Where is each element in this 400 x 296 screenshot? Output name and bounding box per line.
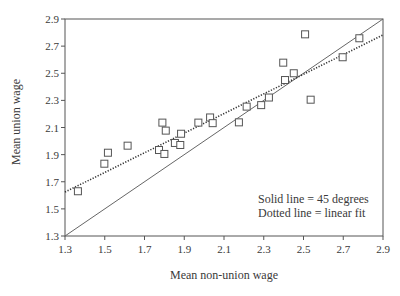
- y-tick-label: 1.3: [45, 230, 59, 242]
- x-axis-title: Mean non-union wage: [170, 268, 278, 282]
- data-point-square: [290, 70, 297, 77]
- data-point-square: [282, 77, 289, 84]
- data-point-square: [74, 188, 81, 195]
- annotation-dotted-line: Dotted line = linear fit: [258, 206, 366, 220]
- annotation-solid-line: Solid line = 45 degrees: [258, 192, 369, 206]
- data-point-square: [307, 96, 314, 103]
- data-point-square: [195, 119, 202, 126]
- y-tick-label: 1.9: [45, 149, 59, 161]
- data-point-square: [280, 59, 287, 66]
- x-tick-label: 2.5: [297, 243, 311, 255]
- x-axis: 1.31.51.71.92.12.32.52.72.9: [58, 236, 390, 255]
- data-point-square: [178, 130, 185, 137]
- data-point-square: [104, 149, 111, 156]
- data-point-square: [159, 119, 166, 126]
- x-tick-label: 2.3: [257, 243, 271, 255]
- x-tick-label: 2.7: [336, 243, 350, 255]
- linear-fit-line: [65, 35, 383, 192]
- data-point-square: [124, 142, 131, 149]
- y-tick-label: 1.7: [45, 176, 59, 188]
- x-tick-label: 2.9: [376, 243, 390, 255]
- data-points: [74, 31, 362, 195]
- data-point-square: [258, 102, 265, 109]
- x-tick-label: 1.9: [177, 243, 191, 255]
- data-point-square: [177, 141, 184, 148]
- data-point-square: [243, 103, 250, 110]
- x-tick-label: 2.1: [217, 243, 231, 255]
- y-axis-title: Mean union wage: [9, 79, 23, 165]
- x-tick-label: 1.3: [58, 243, 72, 255]
- data-point-square: [339, 54, 346, 61]
- data-point-square: [235, 119, 242, 126]
- y-tick-label: 1.5: [45, 203, 59, 215]
- y-tick-label: 2.5: [45, 67, 59, 79]
- data-point-square: [161, 150, 168, 157]
- data-point-square: [265, 94, 272, 101]
- y-tick-label: 2.1: [45, 122, 59, 134]
- y-tick-label: 2.7: [45, 40, 59, 52]
- data-point-square: [101, 160, 108, 167]
- data-point-square: [209, 120, 216, 127]
- x-tick-label: 1.7: [138, 243, 152, 255]
- data-point-square: [302, 31, 309, 38]
- data-point-square: [162, 127, 169, 134]
- x-tick-label: 1.5: [98, 243, 112, 255]
- data-point-square: [356, 35, 363, 42]
- y-tick-label: 2.9: [45, 13, 59, 25]
- y-tick-label: 2.3: [45, 94, 59, 106]
- y-axis: 1.31.51.71.92.12.32.52.72.9: [45, 13, 65, 242]
- scatter-chart: 1.31.51.71.92.12.32.52.72.9 1.31.51.71.9…: [0, 0, 400, 296]
